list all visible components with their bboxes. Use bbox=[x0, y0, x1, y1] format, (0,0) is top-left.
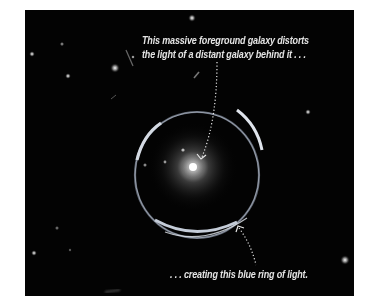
caption-bottom: . . . creating this blue ring of light. bbox=[170, 268, 308, 282]
caption-top-line2: the light of a distant galaxy behind it … bbox=[142, 48, 309, 62]
arrow-to-ring bbox=[236, 226, 256, 265]
caption-top-line1: This massive foreground galaxy distorts bbox=[142, 34, 309, 48]
foreground-galaxy bbox=[148, 122, 238, 212]
astronomy-image: This massive foreground galaxy distorts … bbox=[25, 10, 354, 296]
caption-top: This massive foreground galaxy distorts … bbox=[142, 34, 309, 61]
